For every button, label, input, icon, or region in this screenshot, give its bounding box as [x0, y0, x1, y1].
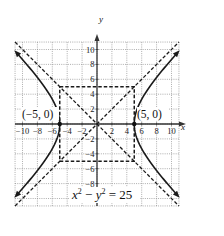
svg-text:2: 2	[110, 126, 114, 136]
vertex-label-right: (5, 0)	[137, 108, 162, 121]
svg-text:−6: −6	[85, 164, 94, 174]
svg-text:6: 6	[140, 126, 144, 136]
svg-text:10: 10	[86, 45, 95, 55]
svg-text:−10: −10	[16, 126, 29, 136]
svg-text:−4: −4	[63, 126, 73, 136]
svg-text:8: 8	[154, 126, 158, 136]
vertex-label-left: (−5, 0)	[22, 108, 54, 121]
svg-text:8: 8	[90, 59, 94, 69]
svg-text:2: 2	[90, 104, 94, 114]
svg-text:4: 4	[125, 126, 130, 136]
hyperbola-graph: −10−8−6−4−2246810108642−2−4−6−8 y x (−5,…	[0, 0, 224, 236]
svg-text:−6: −6	[48, 126, 57, 136]
x-axis-label: x	[180, 122, 185, 132]
svg-text:6: 6	[90, 74, 94, 84]
y-axis-label: y	[98, 14, 103, 24]
svg-text:−8: −8	[33, 126, 42, 136]
svg-text:10: 10	[167, 126, 176, 136]
svg-text:−2: −2	[85, 134, 94, 144]
svg-text:−4: −4	[85, 149, 95, 159]
